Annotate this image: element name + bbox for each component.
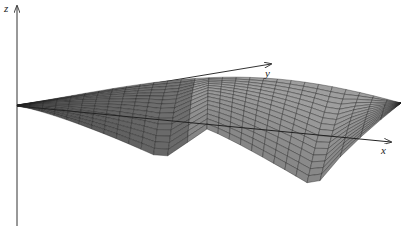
- z-axis-label: z: [3, 2, 9, 14]
- surface-cell: [109, 99, 123, 102]
- surface-cell: [161, 103, 176, 108]
- surface-cell: [155, 142, 170, 149]
- x-axis-label: x: [380, 144, 386, 156]
- surface-cell: [137, 93, 151, 96]
- surface-cell: [155, 136, 170, 143]
- surface-cell: [315, 142, 330, 149]
- surface-cell: [110, 96, 124, 99]
- surface-cell: [159, 113, 174, 118]
- surface-cell: [154, 148, 169, 156]
- surface-cell: [157, 124, 172, 130]
- surface-cell: [69, 102, 82, 104]
- plot-canvas: z y x: [0, 0, 408, 230]
- surface-cell: [151, 90, 165, 93]
- surface-mesh: [17, 77, 401, 183]
- surface-cell: [150, 93, 164, 96]
- surface-plot-figure: z y x: [0, 0, 408, 230]
- surface-cell: [136, 96, 150, 99]
- surface-cell: [312, 155, 327, 162]
- surface-cell: [96, 99, 110, 101]
- surface-cell: [156, 130, 171, 137]
- surface-cell: [313, 148, 328, 155]
- surface-cell: [160, 108, 175, 113]
- surface-cell: [123, 96, 137, 99]
- y-axis-label: y: [264, 67, 270, 79]
